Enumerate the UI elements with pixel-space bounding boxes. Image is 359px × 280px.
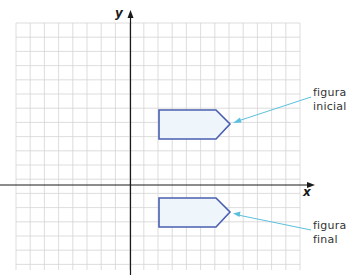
- pointer-arrowhead-icon: [233, 118, 242, 124]
- initial-figure-label-line2: inicial: [313, 100, 346, 114]
- final-figure-label-line1: figura: [313, 219, 346, 233]
- final-figure-label: figura final: [313, 219, 346, 247]
- initial-figure-shape: [159, 110, 230, 139]
- pointer-arrowhead-icon: [233, 212, 241, 218]
- y-axis-label: y: [115, 6, 123, 20]
- y-axis-arrow-icon: [128, 10, 134, 18]
- final-figure-shape: [159, 198, 230, 227]
- final-figure-label-line2: final: [313, 233, 346, 247]
- grid: [16, 23, 300, 270]
- x-axis-label: x: [303, 185, 311, 199]
- coordinate-diagram: [0, 0, 359, 280]
- y-axis: [128, 10, 134, 275]
- initial-figure-label-line1: figura: [313, 86, 346, 100]
- initial-figure-label: figura inicial: [313, 86, 346, 114]
- x-axis: [0, 182, 315, 188]
